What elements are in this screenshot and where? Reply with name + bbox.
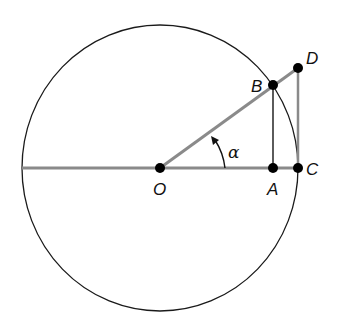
- label-O: O: [153, 180, 166, 199]
- point-C: [293, 163, 303, 173]
- label-B: B: [251, 77, 262, 96]
- angle-label-alpha: α: [228, 142, 240, 162]
- label-D: D: [306, 49, 318, 68]
- point-O: [155, 163, 165, 173]
- point-D: [293, 63, 303, 73]
- diagram-canvas: O A C B D α: [0, 0, 337, 334]
- point-A: [268, 163, 278, 173]
- angle-arc: [215, 140, 225, 168]
- point-B: [268, 80, 278, 90]
- unit-circle-diagram: O A C B D α: [0, 0, 337, 334]
- label-A: A: [266, 180, 278, 199]
- label-C: C: [306, 160, 319, 179]
